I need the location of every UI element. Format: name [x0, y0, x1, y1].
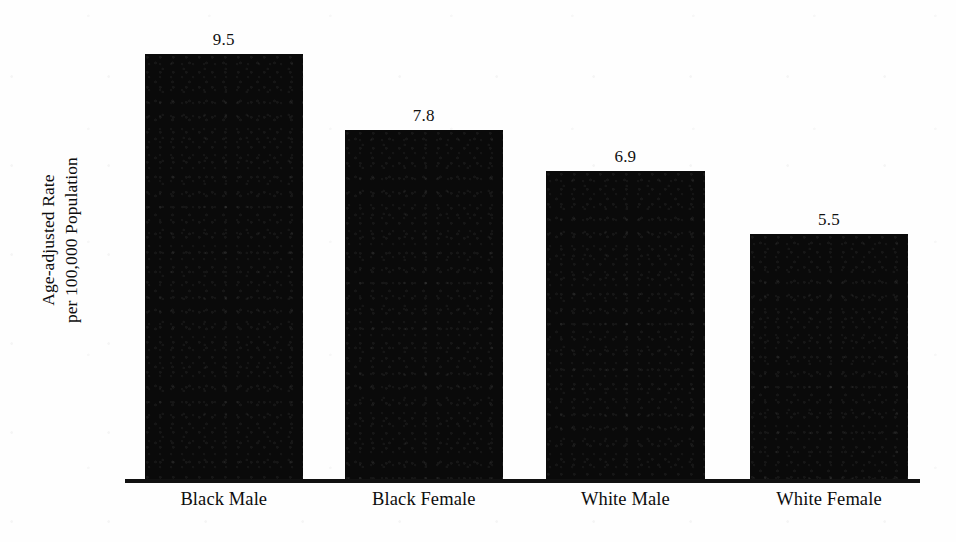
- x-axis-category-labels: Black MaleBlack FemaleWhite MaleWhite Fe…: [125, 489, 925, 529]
- bar-value-label: 9.5: [145, 30, 303, 50]
- x-axis-line: [125, 479, 920, 483]
- bar-group: 9.5: [145, 54, 303, 481]
- bar-black-female: [345, 130, 503, 481]
- bar-group: 7.8: [345, 130, 503, 481]
- bar-group: 5.5: [750, 234, 908, 481]
- bar-value-label: 6.9: [546, 147, 705, 167]
- bar-value-label: 7.8: [345, 106, 503, 126]
- bar-chart-figure: Age-adjusted Rate per 100,000 Population…: [0, 0, 956, 542]
- y-axis-title-line-2: per 100,000 Population: [60, 157, 83, 323]
- bar-white-female: [750, 234, 908, 481]
- bar-group: 6.9: [546, 171, 705, 481]
- y-axis-title-line-1: Age-adjusted Rate: [37, 157, 60, 323]
- y-axis-title: Age-adjusted Rate per 100,000 Population: [0, 0, 120, 481]
- bar-white-male: [546, 171, 705, 481]
- plot-area: 9.57.86.95.5: [125, 0, 925, 484]
- bar-black-male: [145, 54, 303, 481]
- category-label-black-male: Black Male: [145, 489, 303, 510]
- bar-value-label: 5.5: [750, 210, 908, 230]
- category-label-white-female: White Female: [750, 489, 908, 510]
- category-label-black-female: Black Female: [345, 489, 503, 510]
- category-label-white-male: White Male: [546, 489, 705, 510]
